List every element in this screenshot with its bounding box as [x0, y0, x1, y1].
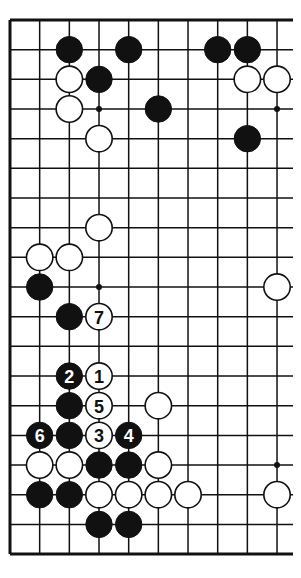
stone-circle [145, 452, 171, 478]
stone-circle [115, 452, 141, 478]
white-stone [56, 244, 82, 270]
white-stone [234, 66, 260, 92]
stone-circle [145, 96, 171, 122]
black-stone [234, 125, 260, 151]
stone-circle [145, 393, 171, 419]
white-stone [86, 125, 112, 151]
black-stone [86, 452, 112, 478]
move-number: 1 [94, 367, 104, 387]
stone-circle [86, 66, 112, 92]
white-stone [56, 96, 82, 122]
star-point [274, 462, 280, 468]
stone-circle [175, 482, 201, 508]
numbered-black-stone: 4 [115, 422, 141, 448]
move-number: 4 [124, 426, 134, 446]
star-point [96, 284, 102, 290]
stone-circle [26, 482, 52, 508]
stone-circle [56, 422, 82, 448]
white-stone [145, 452, 171, 478]
white-stone [56, 452, 82, 478]
numbered-white-stone: 7 [86, 304, 112, 330]
move-number: 2 [64, 367, 74, 387]
black-stone [115, 36, 141, 62]
black-stone [56, 36, 82, 62]
numbered-black-stone: 2 [56, 363, 82, 389]
move-number: 3 [94, 426, 104, 446]
stone-circle [234, 66, 260, 92]
black-stone [56, 304, 82, 330]
stone-circle [56, 244, 82, 270]
white-stone [175, 482, 201, 508]
numbered-white-stone: 5 [86, 393, 112, 419]
numbered-black-stone: 6 [26, 422, 52, 448]
stone-circle [115, 482, 141, 508]
stone-circle [86, 452, 112, 478]
white-stone [26, 244, 52, 270]
move-number: 7 [94, 308, 104, 328]
stone-circle [86, 125, 112, 151]
white-stone [264, 482, 290, 508]
black-stone [26, 274, 52, 300]
black-stone [26, 482, 52, 508]
stone-circle [115, 511, 141, 537]
stone-circle [56, 482, 82, 508]
stone-circle [145, 482, 171, 508]
stone-circle [56, 304, 82, 330]
black-stone [86, 66, 112, 92]
stone-circle [26, 244, 52, 270]
black-stone [145, 96, 171, 122]
star-point [274, 106, 280, 112]
black-stone [56, 482, 82, 508]
black-stone [56, 422, 82, 448]
white-stone [86, 482, 112, 508]
numbered-white-stone: 3 [86, 422, 112, 448]
numbered-white-stone: 1 [86, 363, 112, 389]
white-stone [26, 452, 52, 478]
black-stone [56, 393, 82, 419]
stone-circle [26, 452, 52, 478]
white-stone [264, 66, 290, 92]
white-stone [86, 214, 112, 240]
white-stone [56, 66, 82, 92]
stone-circle [86, 214, 112, 240]
white-stone [145, 393, 171, 419]
stone-circle [56, 393, 82, 419]
stone-circle [115, 36, 141, 62]
move-number: 5 [94, 397, 104, 417]
white-stone [264, 274, 290, 300]
black-stone [234, 36, 260, 62]
stone-circle [26, 274, 52, 300]
stone-circle [234, 125, 260, 151]
stone-circle [86, 482, 112, 508]
stone-circle [56, 452, 82, 478]
black-stone [86, 511, 112, 537]
stone-circle [56, 36, 82, 62]
move-number: 6 [35, 426, 45, 446]
stone-circle [56, 66, 82, 92]
stone-circle [56, 96, 82, 122]
white-stone [115, 482, 141, 508]
star-point [96, 106, 102, 112]
stone-circle [264, 482, 290, 508]
black-stone [115, 452, 141, 478]
stone-circle [264, 274, 290, 300]
go-board: 7215634 [0, 0, 301, 578]
stone-circle [86, 511, 112, 537]
black-stone [204, 36, 230, 62]
black-stone [115, 511, 141, 537]
stone-circle [234, 36, 260, 62]
stone-circle [264, 66, 290, 92]
white-stone [145, 482, 171, 508]
stone-circle [204, 36, 230, 62]
